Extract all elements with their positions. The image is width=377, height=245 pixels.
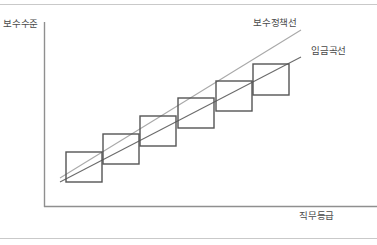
x-axis-title: 직무등급	[299, 211, 334, 221]
y-axis-title: 보수수준	[3, 19, 38, 29]
plot-area	[0, 0, 377, 245]
compensation-policy-line-figure: 보수수준 직무등급 보수정책선 임금곡선	[0, 0, 377, 245]
policy-line-label: 보수정책선	[253, 18, 297, 28]
grade-box	[66, 152, 102, 182]
grade-box	[103, 134, 139, 164]
policy-line	[60, 30, 301, 178]
grade-box-group	[66, 64, 289, 182]
wage-curve-line	[60, 57, 301, 182]
wage-curve-label: 임금곡선	[311, 46, 346, 56]
